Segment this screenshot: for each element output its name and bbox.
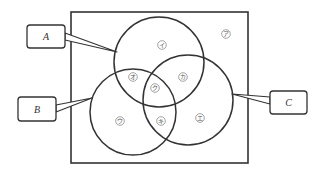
venn-diagram: ABCアイウエオカキク [0,0,323,173]
set-circle-a [114,17,204,107]
svg-text:ク: ク [152,84,158,91]
region-label-ki: キ [157,117,166,126]
callout-c: C [232,91,307,114]
callout-b: B [18,97,92,121]
region-label-a: ア [222,30,231,39]
region-label-e: エ [196,114,205,123]
svg-text:キ: キ [158,117,164,124]
svg-text:ア: ア [223,30,229,37]
region-label-u: ウ [116,117,125,126]
set-label-b: B [34,104,40,115]
set-circle-c [143,55,233,145]
svg-text:オ: オ [130,73,136,80]
region-label-ku: ク [151,84,160,93]
svg-text:ウ: ウ [117,117,123,124]
svg-text:カ: カ [180,73,186,80]
region-label-i: イ [158,41,167,50]
region-label-o: オ [129,73,138,82]
set-label-a: A [42,31,50,42]
svg-text:イ: イ [159,41,165,48]
region-label-ka: カ [179,73,188,82]
set-circle-b [90,69,176,155]
svg-text:エ: エ [197,114,203,121]
set-label-c: C [285,97,292,108]
callout-a: A [27,25,117,52]
